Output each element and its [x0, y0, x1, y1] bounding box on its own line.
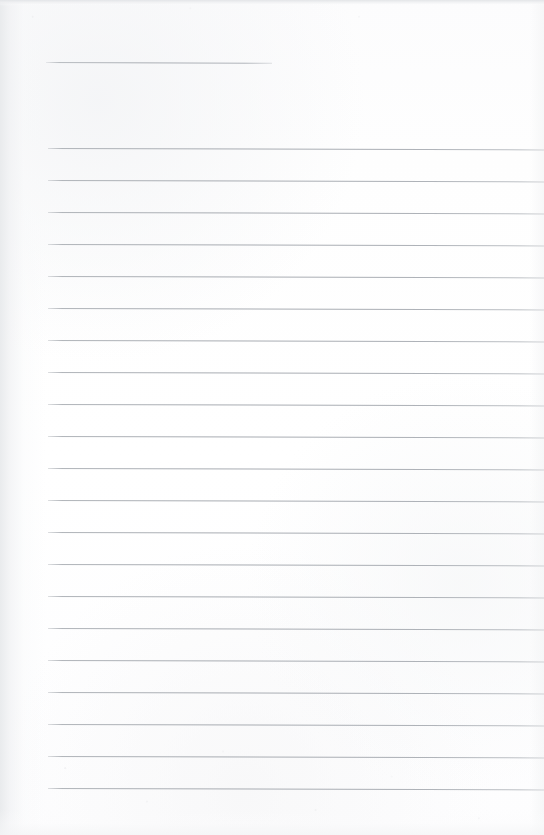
paper-background [0, 0, 544, 835]
scanned-page [0, 0, 544, 835]
